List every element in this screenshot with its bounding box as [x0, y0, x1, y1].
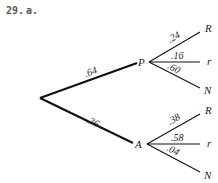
probability-tree-diagram: 29. a. .64 .36 P A .24 .16 .60 R r N .38…	[0, 0, 218, 183]
leaf-P-r: r	[207, 55, 212, 67]
prob-A-r: .58	[171, 132, 184, 143]
node-label-P: P	[137, 56, 145, 68]
leaf-P-R: R	[204, 22, 212, 34]
prob-P-r: .16	[171, 50, 184, 61]
leaf-A-N: N	[203, 169, 212, 181]
prob-A-R: .38	[166, 111, 182, 127]
leaf-A-r: r	[207, 137, 212, 149]
leaf-P-N: N	[203, 84, 212, 96]
problem-part: a.	[26, 5, 38, 16]
problem-number: 29.	[6, 5, 24, 16]
subtree-P: .24 .16 .60 R r N	[149, 22, 212, 96]
leaf-A-R: R	[204, 104, 212, 116]
prob-P-R: .24	[166, 29, 182, 45]
subtree-A: .38 .58 .04 R r N	[147, 104, 212, 181]
node-label-A: A	[134, 138, 142, 150]
